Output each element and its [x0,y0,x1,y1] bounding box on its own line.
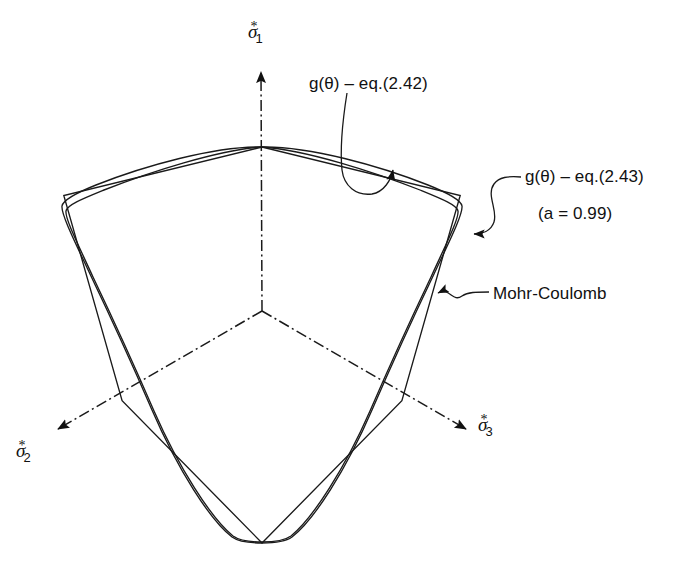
axis-label-sigma1: σ*1 [248,18,263,47]
sigma3-subscript: 3 [486,424,493,440]
annotation-eq-2-43: g(θ) – eq.(2.43) [525,166,644,187]
leader-eq-2-42 [341,93,393,194]
axis-sigma3 [262,311,466,429]
axis-label-sigma3: σ*3 [478,411,493,440]
axis-sigma2 [58,311,262,429]
axis-sigma1 [261,72,262,311]
annotation-eq-2-43-parameter: (a = 0.99) [538,203,612,224]
axis-label-sigma2: σ*2 [16,437,31,466]
leader-eq-2-43 [474,177,521,234]
yield-surface-figure: σ*1 σ*2 σ*3 g(θ) – eq.(2.42) g(θ) – eq.(… [0,0,693,572]
annotation-eq-2-42: g(θ) – eq.(2.42) [309,73,428,94]
annotation-mohr-coulomb: Mohr-Coulomb [493,283,607,304]
sigma1-subscript: 1 [256,31,263,47]
sigma2-subscript: 2 [24,450,31,466]
leader-mohr-coulomb [438,292,489,298]
axes-group [58,72,466,429]
